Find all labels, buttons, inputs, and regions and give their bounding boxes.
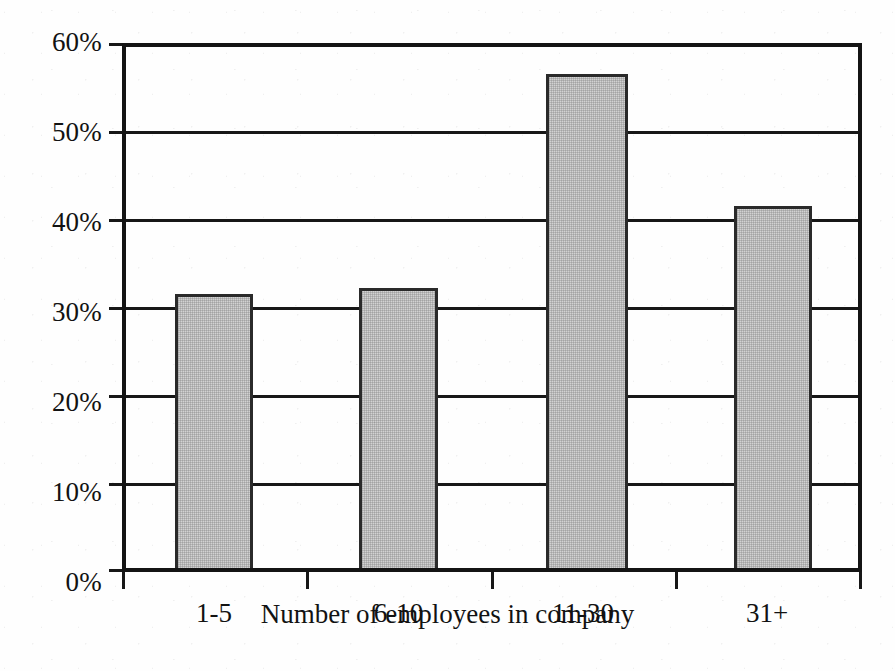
x-tick-0: [122, 572, 125, 589]
plot-frame-top: [122, 43, 862, 47]
y-tick-label-20: 20%: [52, 389, 102, 416]
y-axis-labels: 60% 50% 40% 30% 20% 10% 0%: [0, 43, 102, 572]
y-tick-label-10: 10%: [52, 479, 102, 506]
bar-11-30: [546, 74, 628, 572]
y-tick-30: [109, 307, 122, 310]
bar-chart: 60% 50% 40% 30% 20% 10% 0%: [0, 0, 895, 671]
plot-area: 1-5 6-10 11-30 31+: [122, 43, 862, 572]
y-tick-0: [109, 569, 122, 572]
y-tick-40: [109, 219, 122, 222]
bar-6-10: [359, 288, 438, 572]
plot-frame-right: [858, 43, 862, 572]
bar-1-5: [175, 294, 253, 572]
y-tick-label-50: 50%: [52, 119, 102, 146]
y-tick-10: [109, 483, 122, 486]
y-axis-line: [122, 43, 126, 572]
y-tick-60: [109, 43, 122, 46]
x-tick-3: [675, 572, 678, 589]
y-tick-label-60: 60%: [52, 29, 102, 56]
y-tick-label-40: 40%: [52, 209, 102, 236]
x-tick-2: [491, 572, 494, 589]
y-tick-label-30: 30%: [52, 299, 102, 326]
x-axis-title: Number of employees in company: [0, 598, 895, 630]
x-tick-4: [859, 572, 862, 589]
bar-31+: [734, 206, 812, 572]
x-tick-1: [306, 572, 309, 589]
y-tick-50: [109, 131, 122, 134]
y-tick-label-0: 0%: [66, 569, 102, 596]
y-tick-20: [109, 395, 122, 398]
gridline-50: [122, 131, 862, 134]
